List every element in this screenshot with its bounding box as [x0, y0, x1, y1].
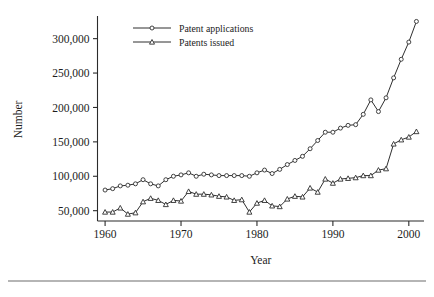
x-tick-label: 1980	[245, 228, 268, 240]
data-point-marker	[263, 168, 267, 172]
data-point-marker	[126, 183, 130, 187]
data-point-marker	[133, 182, 137, 186]
data-point-marker	[156, 184, 160, 188]
data-point-marker	[171, 174, 175, 178]
data-point-marker	[202, 172, 206, 176]
legend-label: Patents issued	[179, 37, 234, 48]
x-tick-label: 1960	[94, 228, 117, 240]
data-point-marker	[232, 174, 236, 178]
data-point-marker	[255, 171, 259, 175]
data-point-marker	[270, 172, 274, 176]
data-point-marker	[407, 40, 411, 44]
x-tick-label: 1970	[170, 228, 193, 240]
data-point-marker	[111, 187, 115, 191]
data-point-marker	[179, 173, 183, 177]
data-point-marker	[247, 174, 251, 178]
data-point-marker	[187, 171, 191, 175]
y-tick-label: 200,000	[52, 102, 90, 115]
data-point-marker	[301, 154, 305, 158]
y-tick-label: 250,000	[52, 67, 90, 80]
data-point-marker	[399, 57, 403, 61]
patent-statistics-chart: 50,000100,000150,000200,000250,000300,00…	[0, 0, 434, 297]
y-axis-title: Number	[12, 100, 24, 138]
data-point-marker	[354, 123, 358, 127]
data-point-marker	[338, 126, 342, 130]
data-point-marker	[240, 174, 244, 178]
data-point-marker	[149, 182, 153, 186]
data-point-marker	[141, 178, 145, 182]
data-point-marker	[392, 76, 396, 80]
data-point-marker	[414, 19, 418, 23]
x-tick-label: 1990	[321, 228, 344, 240]
data-point-marker	[361, 112, 365, 116]
data-point-marker	[225, 174, 229, 178]
data-point-marker	[217, 174, 221, 178]
data-point-marker	[323, 130, 327, 134]
y-tick-label: 150,000	[52, 136, 90, 149]
data-point-marker	[346, 123, 350, 127]
data-point-marker	[194, 174, 198, 178]
data-point-marker	[278, 167, 282, 171]
data-point-marker	[285, 163, 289, 167]
x-tick-label: 2000	[397, 228, 420, 240]
data-point-marker	[293, 158, 297, 162]
data-point-marker	[150, 26, 154, 30]
y-tick-label: 300,000	[52, 33, 90, 46]
data-point-marker	[103, 188, 107, 192]
legend-label: Patent applications	[179, 23, 253, 34]
y-tick-label: 100,000	[52, 170, 90, 183]
data-point-marker	[316, 138, 320, 142]
data-point-marker	[209, 173, 213, 177]
data-point-marker	[118, 184, 122, 188]
chart-canvas: 50,000100,000150,000200,000250,000300,00…	[0, 0, 434, 297]
data-point-marker	[376, 110, 380, 114]
data-point-marker	[369, 98, 373, 102]
data-point-marker	[384, 96, 388, 100]
y-tick-label: 50,000	[58, 205, 90, 218]
data-point-marker	[164, 178, 168, 182]
data-point-marker	[331, 130, 335, 134]
x-axis-title: Year	[250, 254, 271, 266]
data-point-marker	[308, 147, 312, 151]
